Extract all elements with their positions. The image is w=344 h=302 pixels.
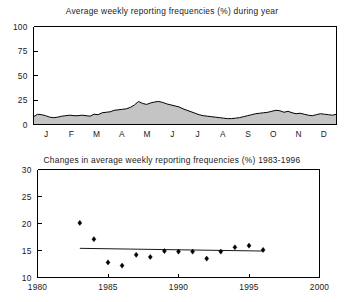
chart-panel-bottom: Changes in average weekly reporting freq… [0, 151, 344, 302]
top-x-tick-label: D [321, 129, 327, 139]
bottom-scatter-points [78, 220, 265, 268]
top-x-tick-label: F [69, 129, 74, 139]
scatter-point [261, 247, 265, 252]
scatter-point [106, 260, 110, 265]
scatter-point [92, 237, 96, 242]
top-y-tick-label: 50 [18, 71, 28, 81]
bottom-y-tick-label: 20 [22, 219, 32, 229]
top-x-axis-tick-labels: JFMAMJJASOND [44, 129, 327, 139]
top-y-tick-label: 100 [13, 22, 28, 32]
figure-container: Average weekly reporting frequencies (%)… [0, 0, 344, 302]
bottom-chart-svg: 1015202530 19801985199019952000 [0, 151, 344, 302]
bottom-y-tick-label: 25 [22, 192, 32, 202]
scatter-point [134, 252, 138, 257]
bottom-x-tick-label: 1995 [239, 282, 259, 292]
top-chart-svg: 0255075100 JFMAMJJASOND [0, 0, 344, 151]
scatter-point [233, 245, 237, 250]
bottom-x-axis-tickmarks [38, 274, 320, 278]
scatter-point [120, 263, 124, 268]
bottom-x-axis-tick-labels: 19801985199019952000 [28, 282, 330, 292]
top-y-tick-label: 0 [23, 120, 28, 130]
scatter-point [78, 220, 82, 225]
chart-panel-top: Average weekly reporting frequencies (%)… [0, 0, 344, 151]
scatter-point [205, 256, 209, 261]
bottom-x-tick-label: 1980 [28, 282, 48, 292]
bottom-y-tick-label: 30 [22, 165, 32, 175]
bottom-chart-plot: 1015202530 19801985199019952000 [0, 151, 344, 302]
scatter-point [219, 249, 223, 254]
top-x-tick-label: O [270, 129, 277, 139]
top-chart-plot: 0255075100 JFMAMJJASOND [0, 0, 344, 151]
top-x-tick-label: S [245, 129, 251, 139]
scatter-point [148, 254, 152, 259]
top-x-tick-label: J [195, 129, 199, 139]
bottom-x-tick-label: 1990 [169, 282, 189, 292]
top-area-fill [34, 101, 337, 124]
bottom-y-axis-tickmarks [38, 170, 42, 278]
top-x-tick-label: J [44, 129, 48, 139]
top-y-axis-tick-labels: 0255075100 [13, 22, 28, 130]
top-x-tick-label: J [170, 129, 174, 139]
bottom-x-tick-label: 2000 [310, 282, 330, 292]
top-x-tick-label: M [93, 129, 100, 139]
top-x-tick-label: A [119, 129, 125, 139]
top-y-tick-label: 75 [18, 46, 28, 56]
top-x-tick-label: M [144, 129, 151, 139]
bottom-y-tick-label: 15 [22, 246, 32, 256]
scatter-point [247, 243, 251, 248]
top-y-axis-tickmarks [34, 27, 38, 125]
bottom-x-tick-label: 1985 [98, 282, 118, 292]
top-x-tick-label: N [296, 129, 302, 139]
bottom-y-axis-tick-labels: 1015202530 [22, 165, 32, 283]
top-x-tick-label: A [220, 129, 226, 139]
top-y-tick-label: 25 [18, 95, 28, 105]
